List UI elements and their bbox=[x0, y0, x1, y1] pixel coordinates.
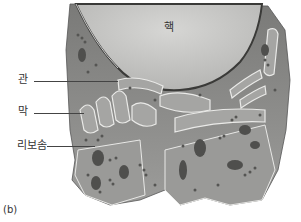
membrane-leader-line bbox=[34, 113, 84, 114]
panel-label: (b) bbox=[3, 204, 17, 216]
ribosome-leader-line bbox=[47, 146, 95, 147]
er-sheet-left bbox=[75, 140, 145, 205]
tube-label: 관 bbox=[18, 74, 28, 86]
membrane-label: 막 bbox=[18, 106, 28, 118]
tube-leader-line bbox=[34, 81, 118, 82]
er-illustration bbox=[0, 0, 301, 222]
nucleus-label: 핵 bbox=[164, 22, 174, 34]
ribosome-label: 리보솜 bbox=[17, 140, 47, 152]
er-diagram: 핵 관 막 리보솜 (b) bbox=[0, 0, 301, 222]
